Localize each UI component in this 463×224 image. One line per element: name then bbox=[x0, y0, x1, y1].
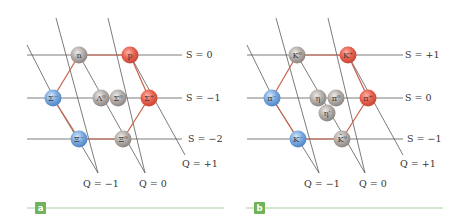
particle-eta: η bbox=[310, 90, 327, 107]
svg-text:π⁺: π⁺ bbox=[363, 94, 372, 103]
particle-lambda-zero: Λ⁰ bbox=[93, 90, 110, 107]
svg-text:Σ⁻: Σ⁻ bbox=[48, 94, 58, 103]
panel-b-badge: b bbox=[254, 202, 265, 214]
particle-k-zero: K⁰ bbox=[289, 47, 306, 64]
svg-text:Λ⁰: Λ⁰ bbox=[96, 94, 106, 103]
svg-text:Σ⁺: Σ⁺ bbox=[144, 94, 154, 103]
particle-k-zero-bar: K̄⁰ bbox=[334, 131, 351, 148]
svg-text:η: η bbox=[316, 94, 321, 103]
svg-text:π⁰: π⁰ bbox=[332, 94, 340, 103]
svg-text:Ξ⁰: Ξ⁰ bbox=[119, 135, 128, 144]
q-line-plus1 bbox=[348, 55, 403, 155]
particle-k-minus: K⁻ bbox=[290, 131, 307, 148]
s-label-minus1: S = −1 bbox=[407, 133, 442, 144]
svg-text:b: b bbox=[256, 203, 262, 213]
s-label-0: S = 0 bbox=[186, 49, 213, 60]
panel-a-baryon-octet: n p Σ⁻ Λ⁰ Σ⁰ Σ⁺ Ξ⁻ Ξ⁰ S bbox=[27, 18, 224, 214]
particle-pi-minus: π⁻ bbox=[264, 90, 281, 107]
svg-text:K⁰: K⁰ bbox=[292, 51, 301, 60]
svg-text:p: p bbox=[127, 51, 132, 60]
q-line-minus1 bbox=[56, 18, 98, 173]
q-label-plus1: Q = +1 bbox=[400, 158, 436, 169]
particle-sigma-zero: Σ⁰ bbox=[110, 90, 127, 107]
s-label-minus2: S = −2 bbox=[188, 133, 223, 144]
particle-pi-zero: π⁰ bbox=[328, 90, 345, 107]
diag-line-q0-low bbox=[79, 55, 145, 173]
s-label-plus1: S = +1 bbox=[405, 49, 440, 60]
q-line-plus1 bbox=[130, 55, 185, 155]
svg-text:K̄⁰: K̄⁰ bbox=[337, 134, 346, 143]
panel-b-meson-nonet: K⁰ K⁺ π⁻ η π⁰ η′ π⁺ K⁻ bbox=[246, 18, 443, 214]
panel-a-badge: a bbox=[35, 202, 46, 214]
svg-text:Σ⁰: Σ⁰ bbox=[114, 94, 123, 103]
particle-sigma-minus: Σ⁻ bbox=[45, 90, 62, 107]
q-label-minus1: Q = −1 bbox=[304, 178, 340, 189]
svg-text:n: n bbox=[76, 51, 81, 60]
q-label-0: Q = 0 bbox=[359, 178, 387, 189]
q-label-0: Q = 0 bbox=[139, 178, 167, 189]
particle-eta-prime: η′ bbox=[319, 105, 336, 122]
s-label-0: S = 0 bbox=[405, 92, 432, 103]
particle-xi-minus: Ξ⁻ bbox=[71, 131, 88, 148]
particle-xi-zero: Ξ⁰ bbox=[115, 131, 132, 148]
particle-pi-plus: π⁺ bbox=[360, 90, 377, 107]
svg-text:Ξ⁻: Ξ⁻ bbox=[74, 135, 84, 144]
particle-sigma-plus: Σ⁺ bbox=[141, 90, 158, 107]
q-label-plus1: Q = +1 bbox=[182, 158, 218, 169]
eightfold-way-diagram: n p Σ⁻ Λ⁰ Σ⁰ Σ⁺ Ξ⁻ Ξ⁰ S bbox=[0, 0, 463, 224]
svg-text:a: a bbox=[38, 203, 44, 213]
q-label-minus1: Q = −1 bbox=[83, 178, 119, 189]
svg-text:K⁻: K⁻ bbox=[293, 135, 303, 144]
particle-n: n bbox=[71, 47, 88, 64]
svg-text:π⁻: π⁻ bbox=[267, 94, 276, 103]
particle-k-plus: K⁺ bbox=[340, 47, 357, 64]
svg-text:η′: η′ bbox=[324, 109, 331, 118]
particle-p: p bbox=[122, 47, 139, 64]
s-label-minus1: S = −1 bbox=[186, 92, 221, 103]
svg-text:K⁺: K⁺ bbox=[343, 51, 353, 60]
